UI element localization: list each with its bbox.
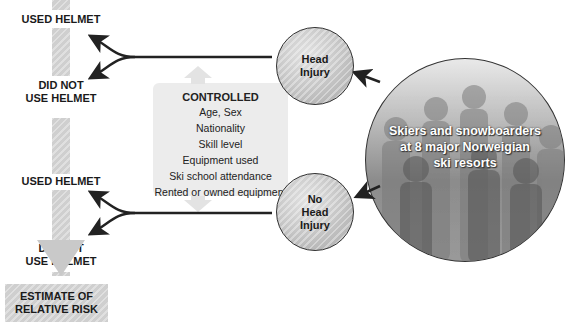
no-head-injury-circle: No Head Injury bbox=[276, 173, 354, 251]
double-arrow-icon bbox=[184, 66, 212, 212]
group-line: Injury bbox=[300, 219, 330, 232]
group-line: Head bbox=[300, 206, 330, 219]
group-line: Injury bbox=[300, 66, 330, 79]
down-arrow-icon bbox=[37, 240, 85, 276]
group-line: No bbox=[300, 193, 330, 206]
head-injury-circle: Head Injury bbox=[276, 27, 354, 105]
group-line: Head bbox=[300, 53, 330, 66]
